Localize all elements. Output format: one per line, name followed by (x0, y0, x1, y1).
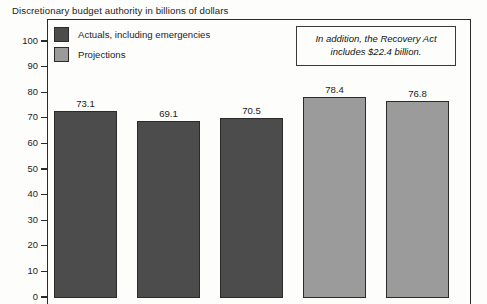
y-axis-tick-label: 20 (28, 239, 38, 250)
bar-value-label: 69.1 (137, 108, 200, 119)
bar (220, 118, 283, 298)
plot-area: Actuals, including emergencies Projectio… (47, 19, 471, 304)
annotation-line-1: In addition, the Recovery Act (301, 33, 451, 46)
bar (54, 111, 117, 298)
y-axis-tick-label: 40 (28, 188, 38, 199)
chart-figure: Discretionary budget authority in billio… (0, 0, 487, 304)
y-axis-tick-label: 100 (22, 35, 38, 46)
bar-value-label: 78.4 (303, 84, 366, 95)
bar-value-label: 70.5 (220, 105, 283, 116)
y-axis-tick-label: 10 (28, 265, 38, 276)
y-axis-tick-label: 60 (28, 137, 38, 148)
y-axis-tick-label: 80 (28, 86, 38, 97)
bar (303, 97, 366, 298)
y-axis-tick-label: 0 (33, 291, 38, 302)
legend-label-actuals: Actuals, including emergencies (78, 29, 210, 40)
y-axis-tick-label: 30 (28, 214, 38, 225)
legend-item-actuals: Actuals, including emergencies (54, 25, 210, 43)
legend-swatch-projections-icon (54, 47, 69, 62)
y-axis: 1009080706050403020100 (0, 0, 47, 304)
y-axis-tick-label: 70 (28, 111, 38, 122)
y-axis-tick-label: 90 (28, 60, 38, 71)
y-axis-tick-label: 50 (28, 163, 38, 174)
legend-item-projections: Projections (54, 45, 210, 63)
chart-legend: Actuals, including emergencies Projectio… (54, 25, 210, 65)
bar (137, 121, 200, 298)
bar-value-label: 73.1 (54, 98, 117, 109)
legend-swatch-actuals-icon (54, 27, 69, 42)
annotation-line-2: includes $22.4 billion. (301, 46, 451, 59)
bar-value-label: 76.8 (386, 88, 449, 99)
legend-label-projections: Projections (78, 49, 125, 60)
bar (386, 101, 449, 298)
annotation-box: In addition, the Recovery Act includes $… (296, 26, 456, 66)
